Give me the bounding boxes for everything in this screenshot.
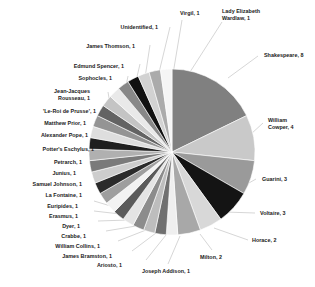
- pie-slice-label: Unidentified, 1: [0, 24, 158, 31]
- leader-line: [200, 234, 212, 250]
- pie-slice-label: James Bramston, 1: [0, 253, 112, 260]
- leader-line: [106, 226, 136, 231]
- pie-slice-label: Petrarch, 1: [0, 159, 82, 166]
- pie-slice-label: Euripides, 1: [0, 203, 78, 210]
- pie-slice-label: William Collins, 1: [0, 243, 100, 250]
- pie-slice-label: Matthew Prior, 1: [0, 120, 86, 127]
- leader-line: [132, 233, 156, 251]
- pie-slice-group: [89, 69, 255, 235]
- pie-slice-label: Ariosto, 1: [0, 262, 122, 269]
- pie-slice-label: Sophocles, 1: [0, 75, 112, 82]
- leader-line: [228, 56, 258, 78]
- pie-slice-label: Joseph Addison, 1: [142, 268, 190, 275]
- pie-slice-label: Shakespeare, 8: [264, 52, 304, 59]
- pie-chart: Shakespeare, 8William Cowper, 4Guarini, …: [0, 0, 315, 287]
- leader-line: [190, 22, 222, 72]
- pie-slice-label: William Cowper, 4: [268, 117, 294, 132]
- leader-line: [118, 230, 146, 241]
- pie-slice-label: Horace, 2: [252, 237, 276, 244]
- pie-slice-label: Virgil, 1: [180, 10, 200, 17]
- pie-slice-label: Dyer, 1: [0, 223, 80, 230]
- pie-slice-label: 'Le-Roi de Prusse', 1: [0, 108, 96, 115]
- pie-slice-label: Alexander Pope, 1: [0, 132, 88, 139]
- pie-slice-label: Erasmus, 1: [0, 213, 78, 220]
- pie-slice-label: Milton, 2: [200, 254, 222, 261]
- leader-line: [146, 235, 166, 260]
- pie-slice-label: Crabbe, 1: [0, 233, 86, 240]
- leader-line: [168, 236, 180, 264]
- pie-slice-label: La Fontaine, 1: [0, 192, 82, 199]
- pie-slice-label: Samuel Johnson, 1: [0, 181, 82, 188]
- pie-slice-label: Potter's Eschylus, 1: [0, 146, 94, 153]
- pie-slice-label: Guarini, 3: [262, 176, 287, 183]
- pie-slice-label: Lady Elizabeth Wardlaw, 1: [222, 8, 260, 23]
- pie-slice-label: Voltaire, 3: [260, 210, 286, 217]
- pie-slice-label: Edmund Spencer, 1: [0, 63, 124, 70]
- pie-slice-label: Junius, 1: [0, 170, 76, 177]
- leader-line: [98, 220, 128, 221]
- pie-slice-label: Jean-Jacques Rousseau, 1: [0, 88, 90, 103]
- pie-slice-label: James Thomson, 1: [0, 43, 135, 50]
- leader-line: [214, 228, 248, 240]
